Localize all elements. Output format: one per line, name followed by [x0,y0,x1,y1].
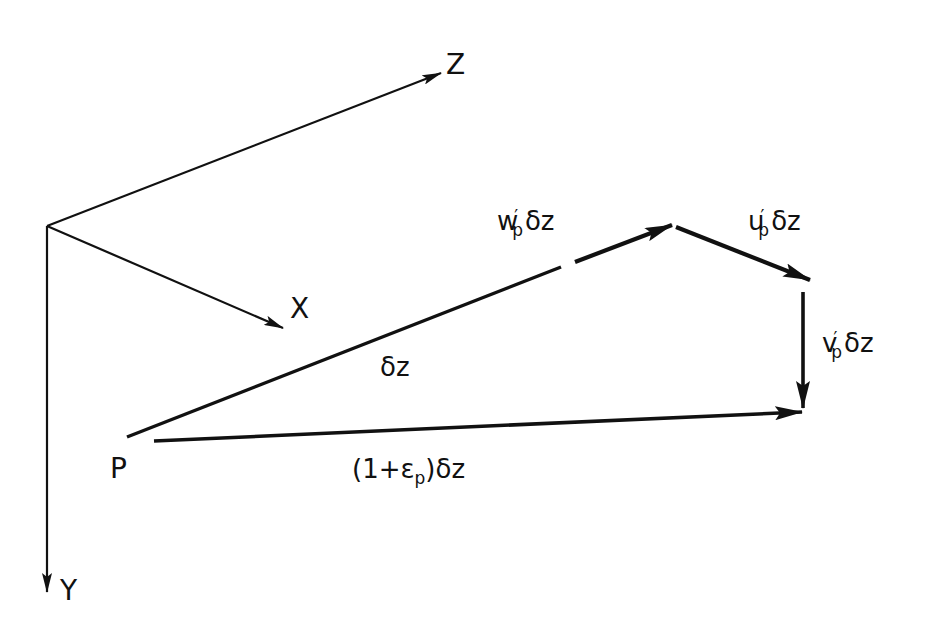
u-displacement-label: u′pδz [748,206,801,240]
dz-element-line [127,267,561,437]
w-subscript: p [512,220,523,240]
z-axis-label: Z [446,48,465,81]
w-displacement-arrow [575,225,672,262]
v-subscript: p [831,342,842,362]
x-axis-label: X [290,292,309,325]
u-subscript: p [758,220,769,240]
z-axis [47,73,441,226]
w-displacement-label: w′pδz [497,206,555,240]
dz-label: δz [380,352,410,382]
dz-label-text: δz [380,352,410,382]
stretched-element-arrow [154,412,802,441]
point-p-label: P [110,452,127,485]
stretched-suffix: )δz [425,454,465,484]
strain-vector-diagram: Z X Y P δz w′pδz u′pδz v′pδz (1+εp)δz [0,0,928,625]
stretched-subscript: p [415,468,426,488]
v-tail: δz [844,328,874,358]
axes [47,73,441,592]
y-axis-label: Y [59,574,78,607]
w-tail: δz [525,206,555,236]
stretched-prefix: (1+ε [352,454,415,484]
stretched-element-label: (1+εp)δz [352,454,465,488]
u-tail: δz [771,206,801,236]
v-displacement-label: v′pδz [822,328,874,362]
x-axis [47,226,283,328]
